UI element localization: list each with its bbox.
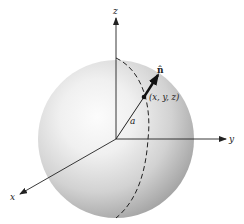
x-axis-label: x bbox=[10, 192, 15, 202]
surface-point bbox=[142, 95, 147, 100]
z-axis-label: z bbox=[112, 6, 118, 16]
point-label: (x, y, z) bbox=[149, 92, 179, 102]
radius-label: a bbox=[130, 116, 135, 126]
diagram-canvas: z y x n̂ (x, y, z) a bbox=[0, 0, 244, 224]
y-axis-label: y bbox=[228, 134, 235, 144]
sphere-diagram: z y x n̂ (x, y, z) a bbox=[0, 0, 244, 224]
normal-vector-label: n̂ bbox=[157, 65, 164, 75]
